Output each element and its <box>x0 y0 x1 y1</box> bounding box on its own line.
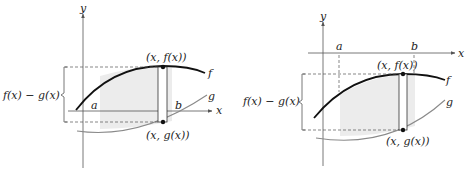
bottom-point-label: (x, g(x)) <box>386 135 430 148</box>
point-f <box>161 65 165 69</box>
f-label: f <box>445 74 452 87</box>
point-g <box>401 128 405 132</box>
g-label: g <box>208 90 215 103</box>
a-label: a <box>336 40 343 53</box>
x-axis-label: x <box>458 47 465 60</box>
a-label: a <box>91 99 98 112</box>
left-figure: y x a b f g (x, f(x)) (x, g(x)) f(x) − g… <box>2 2 223 168</box>
brace-label: f(x) − g(x) <box>2 89 60 102</box>
point-g <box>161 120 165 124</box>
x-axis-label: x <box>216 104 223 117</box>
top-point-label: (x, f(x)) <box>377 59 418 72</box>
b-label: b <box>411 40 418 53</box>
y-axis-label: y <box>319 10 327 23</box>
brace-label: f(x) − g(x) <box>242 95 300 108</box>
g-label: g <box>446 96 453 109</box>
representative-rectangle <box>158 67 167 122</box>
b-label: b <box>175 99 182 112</box>
y-axis-label: y <box>79 2 87 15</box>
point-f <box>401 72 405 76</box>
representative-rectangle <box>399 74 407 130</box>
right-figure: y x a b f g (x, f(x)) (x, g(x)) f(x) − g… <box>242 10 465 166</box>
f-label: f <box>207 67 214 80</box>
bottom-point-label: (x, g(x)) <box>146 129 190 142</box>
top-point-label: (x, f(x)) <box>146 51 187 64</box>
diagram-canvas: y x a b f g (x, f(x)) (x, g(x)) f(x) − g… <box>0 0 467 175</box>
brace <box>61 67 67 122</box>
